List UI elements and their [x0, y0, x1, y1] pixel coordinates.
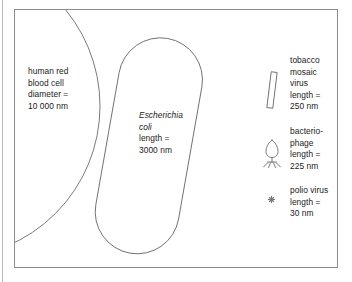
rbc-line-3: diameter = [28, 89, 68, 99]
ecoli-line-3: length = [139, 133, 169, 143]
phage-line-4: 225 nm [290, 161, 318, 171]
tmv-line-1: tobacco [290, 55, 320, 65]
rbc-line-4: 10 000 nm [28, 101, 68, 111]
outer-rule [2, 0, 3, 282]
ecoli-line-2: coli [139, 122, 152, 132]
polio-line-3: 30 nm [290, 208, 314, 218]
escherichia-coli-label: Escherichia coli length = 3000 nm [139, 110, 183, 156]
tmv-line-2: mosaic [290, 67, 317, 77]
phage-line-2: phage [290, 138, 314, 148]
phage-line-3: length = [290, 149, 320, 159]
polio-line-1: polio virus [290, 185, 328, 195]
red-blood-cell-label: human red blood cell diameter = 10 000 n… [28, 66, 69, 112]
ecoli-line-4: 3000 nm [139, 145, 172, 155]
phage-line-1: bacterio- [290, 126, 323, 136]
tmv-line-4: length = [290, 90, 320, 100]
bacteriophage-label: bacterio- phage length = 225 nm [290, 126, 323, 172]
rbc-line-2: blood cell [28, 78, 64, 88]
tmv-line-3: virus [290, 78, 308, 88]
polio-virus-label: polio virus length = 30 nm [290, 185, 328, 220]
polio-line-2: length = [290, 197, 320, 207]
tmv-line-5: 250 nm [290, 101, 318, 111]
size-comparison-diagram: human red blood cell diameter = 10 000 n… [0, 0, 352, 282]
rbc-line-1: human red [28, 66, 69, 76]
ecoli-line-1: Escherichia [139, 110, 183, 120]
tobacco-mosaic-virus-label: tobacco mosaic virus length = 250 nm [290, 55, 320, 113]
